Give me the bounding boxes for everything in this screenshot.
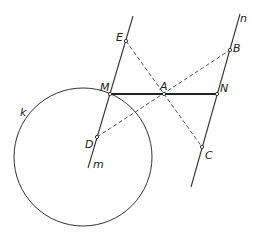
point-d (95, 135, 98, 138)
label-line-n: n (240, 12, 247, 25)
line-m (88, 16, 133, 168)
point-c (200, 145, 203, 148)
point-e (124, 39, 127, 42)
geometry-diagram: E M D A N B C k m n (0, 0, 253, 237)
label-n-point: N (220, 82, 228, 95)
point-n (215, 92, 218, 95)
label-e: E (116, 31, 123, 44)
label-m-point: M (100, 81, 110, 94)
circle-k (14, 88, 152, 226)
line-n (191, 14, 240, 187)
label-a: A (159, 80, 168, 93)
label-b: B (233, 42, 241, 55)
label-d: D (85, 138, 93, 151)
label-line-m: m (93, 158, 104, 171)
label-k: k (20, 106, 27, 119)
label-c: C (205, 149, 213, 162)
point-b (228, 48, 231, 51)
